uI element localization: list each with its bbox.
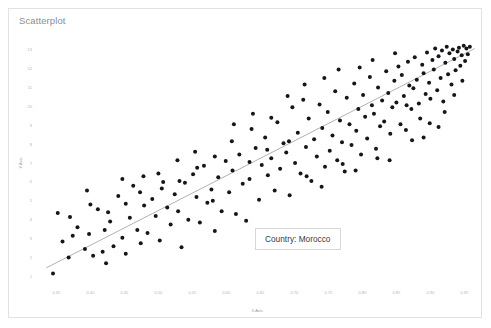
data-point[interactable] — [435, 88, 439, 92]
data-point[interactable] — [323, 165, 327, 169]
data-point[interactable] — [146, 231, 150, 235]
data-point[interactable] — [224, 159, 228, 163]
data-point[interactable] — [241, 182, 245, 186]
data-point[interactable] — [393, 51, 397, 55]
data-point[interactable] — [372, 112, 376, 116]
data-point[interactable] — [165, 205, 169, 209]
data-point[interactable] — [83, 247, 87, 251]
data-point[interactable] — [427, 81, 431, 85]
data-point[interactable] — [354, 129, 358, 133]
data-point[interactable] — [96, 207, 100, 211]
data-point[interactable] — [458, 64, 462, 68]
data-point[interactable] — [141, 174, 145, 178]
data-point[interactable] — [230, 139, 234, 143]
data-point[interactable] — [220, 209, 224, 213]
data-point[interactable] — [318, 102, 322, 106]
data-point[interactable] — [406, 60, 410, 64]
data-point[interactable] — [410, 138, 414, 142]
data-point[interactable] — [138, 190, 142, 194]
data-point[interactable] — [447, 51, 451, 55]
data-point[interactable] — [177, 179, 181, 183]
data-point[interactable] — [150, 197, 154, 201]
data-point[interactable] — [254, 146, 258, 150]
data-point[interactable] — [388, 158, 392, 162]
data-point[interactable] — [440, 49, 444, 53]
data-point[interactable] — [232, 122, 236, 126]
data-point[interactable] — [67, 256, 71, 260]
data-point[interactable] — [430, 58, 434, 62]
data-point[interactable] — [425, 50, 429, 54]
data-point[interactable] — [175, 158, 179, 162]
data-point[interactable] — [378, 124, 382, 128]
data-point[interactable] — [352, 82, 356, 86]
data-point[interactable] — [449, 83, 453, 87]
data-point[interactable] — [191, 172, 195, 176]
data-point[interactable] — [337, 67, 341, 71]
data-point[interactable] — [227, 190, 231, 194]
data-point[interactable] — [116, 194, 120, 198]
data-point[interactable] — [384, 69, 388, 73]
data-point[interactable] — [269, 116, 273, 120]
data-point[interactable] — [205, 201, 209, 205]
data-point[interactable] — [154, 214, 158, 218]
data-point[interactable] — [341, 162, 345, 166]
data-point[interactable] — [288, 193, 292, 197]
data-point[interactable] — [108, 220, 112, 224]
data-point[interactable] — [124, 202, 128, 206]
data-point[interactable] — [103, 228, 107, 232]
data-point[interactable] — [273, 188, 277, 192]
data-point[interactable] — [275, 120, 279, 124]
data-point[interactable] — [428, 97, 432, 101]
data-point[interactable] — [142, 204, 146, 208]
data-point[interactable] — [286, 94, 290, 98]
data-point[interactable] — [433, 47, 437, 51]
data-point[interactable] — [345, 96, 349, 100]
data-point[interactable] — [250, 127, 254, 131]
data-point[interactable] — [404, 128, 408, 132]
data-point[interactable] — [363, 115, 367, 119]
data-point[interactable] — [260, 163, 264, 167]
data-point[interactable] — [87, 232, 91, 236]
data-point[interactable] — [322, 76, 326, 80]
data-point[interactable] — [446, 72, 450, 76]
data-point[interactable] — [287, 139, 291, 143]
data-point[interactable] — [120, 236, 124, 240]
data-point[interactable] — [135, 228, 139, 232]
data-point[interactable] — [445, 45, 449, 49]
data-point[interactable] — [213, 229, 217, 233]
data-point[interactable] — [195, 166, 199, 170]
data-point[interactable] — [413, 55, 417, 59]
data-point[interactable] — [237, 152, 241, 156]
data-point[interactable] — [299, 171, 303, 175]
data-point[interactable] — [370, 103, 374, 107]
data-point[interactable] — [75, 225, 79, 229]
data-point[interactable] — [350, 143, 354, 147]
data-point[interactable] — [454, 68, 458, 72]
data-point[interactable] — [394, 101, 398, 105]
data-point[interactable] — [358, 66, 362, 70]
data-point[interactable] — [382, 119, 386, 123]
data-point[interactable] — [422, 135, 426, 139]
data-point[interactable] — [106, 210, 110, 214]
data-point[interactable] — [451, 48, 455, 52]
data-point[interactable] — [361, 93, 365, 97]
data-point[interactable] — [466, 52, 470, 56]
data-point[interactable] — [278, 167, 282, 171]
data-point[interactable] — [460, 79, 464, 83]
data-point[interactable] — [139, 241, 143, 245]
data-point[interactable] — [320, 185, 324, 189]
data-point[interactable] — [439, 76, 443, 80]
data-point[interactable] — [398, 122, 402, 126]
data-point[interactable] — [424, 92, 428, 96]
data-point[interactable] — [359, 152, 363, 156]
data-point[interactable] — [173, 192, 177, 196]
data-point[interactable] — [85, 188, 89, 192]
data-point[interactable] — [257, 198, 261, 202]
data-point[interactable] — [263, 135, 267, 139]
data-point[interactable] — [248, 160, 252, 164]
data-point[interactable] — [91, 254, 95, 258]
data-point[interactable] — [251, 112, 255, 116]
data-point[interactable] — [51, 272, 55, 276]
data-point[interactable] — [375, 156, 379, 160]
data-point[interactable] — [411, 86, 415, 90]
